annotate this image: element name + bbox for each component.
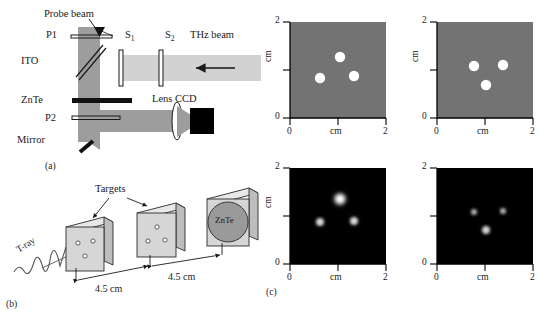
xlabel-top-right: cm xyxy=(477,127,489,137)
thz-beam-band xyxy=(121,55,261,81)
label-znte-disc: ZnTe xyxy=(215,216,234,225)
ylabel-top-right: cm xyxy=(411,50,421,62)
label-p2: P2 xyxy=(45,113,56,124)
ytick-bottom-right-min: 0 xyxy=(422,258,427,268)
ylabel-bottom-left: cm xyxy=(264,196,274,208)
label-s2: S2 xyxy=(165,30,175,43)
mirror-element xyxy=(80,141,93,152)
xtick-bottom-right-min: 0 xyxy=(434,273,439,283)
s1-target xyxy=(119,50,123,86)
xtick-top-right-max: 2 xyxy=(530,127,535,137)
ytick-bottom-left-max: 2 xyxy=(275,162,280,172)
image-target2-thz xyxy=(430,168,533,271)
target-plate-2 xyxy=(137,203,185,257)
targets-arrow-1 xyxy=(93,198,109,218)
ytick-top-left-min: 0 xyxy=(275,112,280,122)
panel-tag-c: (c) xyxy=(266,288,277,298)
label-distance-2: 4.5 cm xyxy=(168,272,195,282)
target1-hole-2 xyxy=(91,239,95,243)
label-znte: ZnTe xyxy=(21,95,43,106)
target1-hole-1 xyxy=(76,241,80,245)
image-target1-thz xyxy=(283,168,386,271)
label-p1: P1 xyxy=(46,30,57,41)
label-probe-beam: Probe beam xyxy=(44,9,94,20)
xtick-bottom-right-max: 2 xyxy=(530,273,535,283)
figure-root: Probe beam P1 S1 S2 THz beam ITO ZnTe P2… xyxy=(0,0,558,325)
target2-hole-2 xyxy=(146,239,150,243)
target2-hole-3 xyxy=(163,238,167,242)
image-target2-visible xyxy=(430,22,533,125)
probe-beam-horizontal xyxy=(95,110,181,132)
xlabel-bottom-left: cm xyxy=(330,273,342,283)
ytick-top-left-max: 2 xyxy=(275,16,280,26)
targets-arrow-2 xyxy=(127,198,147,206)
xtick-bottom-left-min: 0 xyxy=(287,273,292,283)
ytick-top-right-max: 2 xyxy=(422,16,427,26)
xtick-top-left-min: 0 xyxy=(287,127,292,137)
ytick-top-right-min: 0 xyxy=(422,112,427,122)
xtick-top-right-min: 0 xyxy=(434,127,439,137)
label-distance-1: 4.5 cm xyxy=(95,284,122,294)
ytick-bottom-right-max: 2 xyxy=(422,162,427,172)
xlabel-top-left: cm xyxy=(330,127,342,137)
panel-tag-b: (b) xyxy=(6,300,17,310)
label-ito: ITO xyxy=(21,56,38,67)
target2-hole-1 xyxy=(155,225,159,229)
target-plate-1 xyxy=(66,217,113,271)
image-target1-visible xyxy=(283,22,386,125)
label-lens-ccd: Lens CCD xyxy=(152,94,197,105)
xlabel-bottom-right: cm xyxy=(477,273,489,283)
label-mirror: Mirror xyxy=(17,135,45,146)
ylabel-top-left: cm xyxy=(264,50,274,62)
ytick-bottom-left-min: 0 xyxy=(275,258,280,268)
panel-b-schematic xyxy=(14,188,258,280)
label-thz-beam: THz beam xyxy=(190,30,234,41)
ccd-detector xyxy=(190,108,214,134)
label-s1: S1 xyxy=(125,30,135,43)
target1-hole-3 xyxy=(83,254,87,258)
label-targets: Targets xyxy=(95,184,126,195)
znte-crystal xyxy=(72,98,132,103)
xtick-top-left-max: 2 xyxy=(383,127,388,137)
panel-tag-a: (a) xyxy=(45,162,56,172)
s2-target xyxy=(159,50,163,86)
xtick-bottom-left-max: 2 xyxy=(383,273,388,283)
lens-focus-cone xyxy=(177,106,191,137)
